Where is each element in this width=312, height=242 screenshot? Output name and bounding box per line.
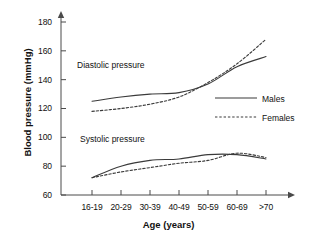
y-tick-label: 100	[26, 132, 52, 142]
annotation-diastolic-pressure: Diastolic pressure	[77, 60, 145, 70]
y-tick-label: 180	[26, 17, 52, 27]
annotation-systolic-pressure: Systolic pressure	[80, 134, 145, 144]
legend-swatch-group	[215, 98, 257, 117]
x-axis-title: Age (years)	[61, 219, 276, 230]
blood-pressure-chart: Blood pressure (mmHg) Age (years) 180 16…	[0, 0, 312, 242]
series-line-females-systolic	[92, 153, 266, 178]
y-tick-label: 140	[26, 75, 52, 85]
y-tick-label: 80	[26, 161, 52, 171]
series-line-females-diastolic	[92, 39, 266, 111]
legend-item-females: Females	[262, 113, 295, 123]
axis-group	[58, 11, 295, 198]
y-tick-label: 160	[26, 46, 52, 56]
y-tick-label: 60	[26, 190, 52, 200]
legend-item-males: Males	[262, 94, 285, 104]
y-tick-label: 120	[26, 103, 52, 113]
x-tick-label: >70	[249, 202, 283, 212]
series-line-males-systolic	[92, 154, 266, 178]
